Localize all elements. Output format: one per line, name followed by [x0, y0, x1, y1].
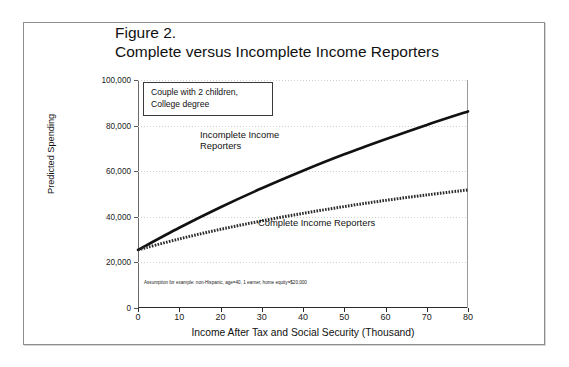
y-axis-title: Predicted Spending: [46, 114, 56, 194]
figure-title-block: Figure 2. Complete versus Incomplete Inc…: [115, 24, 439, 62]
series-label-incomplete: Incomplete Income Reporters: [200, 129, 279, 152]
series-label-complete: Complete Income Reporters: [258, 217, 375, 228]
y-tick-label: 20,000: [106, 258, 131, 267]
page-title: Complete versus Incomplete Income Report…: [115, 43, 439, 62]
assumption-callout-box: Couple with 2 children, College degree: [143, 82, 273, 116]
x-tick-label: 20: [215, 312, 225, 322]
y-tick-label: 100,000: [101, 76, 131, 85]
x-tick-label: 70: [422, 312, 432, 322]
x-tick-label: 40: [298, 312, 308, 322]
x-tick-label: 30: [257, 312, 267, 322]
assumption-footnote: Assumption for example: non-Hispanic, ag…: [144, 280, 307, 285]
figure-number: Figure 2.: [115, 24, 439, 43]
x-tick-label: 10: [174, 312, 184, 322]
x-tick-label: 50: [339, 312, 349, 322]
x-tick-label: 0: [135, 312, 140, 322]
x-tick-label: 60: [380, 312, 390, 322]
y-tick-label: 80,000: [106, 121, 131, 130]
series-incomplete-income-reporters: [138, 111, 468, 249]
x-axis-title: Income After Tax and Social Security (Th…: [191, 327, 414, 338]
chart-plot-area: 020,00040,00060,00080,000100,000 0102030…: [138, 80, 468, 308]
y-tick-label: 40,000: [106, 212, 131, 221]
assumption-line-2: College degree: [151, 99, 238, 111]
x-tick-label: 80: [463, 312, 473, 322]
assumption-line-1: Couple with 2 children,: [151, 87, 238, 99]
y-tick-label: 0: [126, 304, 131, 313]
y-tick-label: 60,000: [106, 167, 131, 176]
